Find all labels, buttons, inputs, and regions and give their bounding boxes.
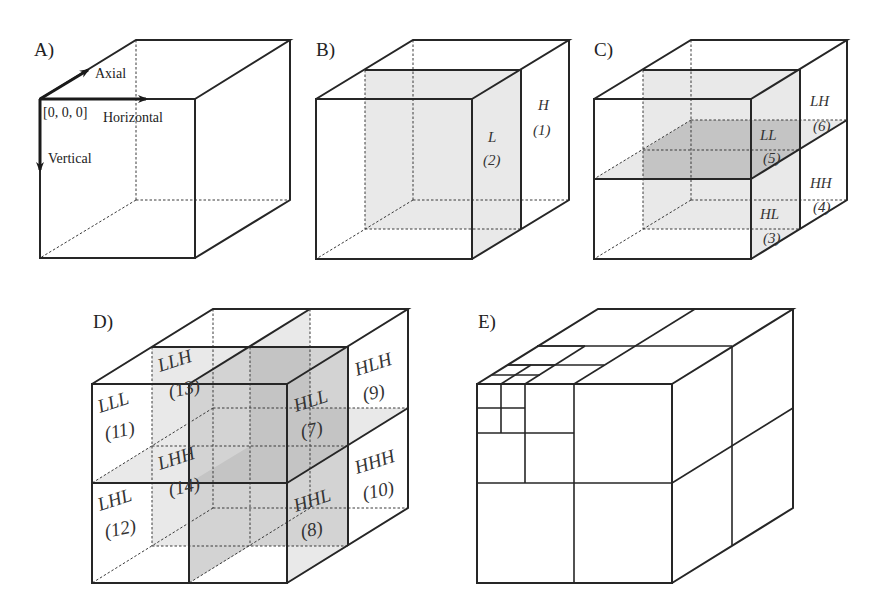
subband-index: (4)	[813, 199, 831, 216]
subband-index: (3)	[763, 230, 781, 247]
subband-index: (11)	[102, 417, 136, 445]
axial-arrow-icon	[40, 70, 88, 99]
subband-name: HHH	[351, 445, 399, 478]
subband-name: LLL	[94, 387, 132, 417]
subband-name: LHL	[94, 484, 135, 515]
subband-name: LH	[809, 93, 830, 109]
axial-label: Axial	[95, 66, 126, 81]
origin-label: [0, 0, 0]	[43, 105, 87, 120]
wavelet-decomposition-figure: A) Axial Horizontal Vertical [0, 0, 0] B…	[0, 0, 880, 608]
subband-hhh: HHH (10)	[351, 445, 399, 505]
cube-outline	[40, 40, 290, 258]
subband-name: HLH	[351, 348, 396, 380]
subband-name: HH	[809, 175, 833, 191]
horizontal-label: Horizontal	[103, 110, 163, 125]
subband-lhl: LHL (12)	[94, 484, 138, 543]
panel-e-label: E)	[478, 311, 496, 333]
subband-name: HL	[759, 206, 779, 222]
subband-index: (6)	[813, 118, 831, 135]
panel-b: B) L (2) H (1)	[316, 39, 569, 259]
subband-hh: HH (4)	[809, 175, 833, 216]
subband-index: (5)	[763, 150, 781, 167]
panel-a: A) Axial Horizontal Vertical [0, 0, 0]	[34, 39, 290, 258]
panel-d-label: D)	[93, 311, 113, 333]
subband-index: (2)	[483, 152, 501, 169]
subband-name: L	[487, 129, 496, 145]
subband-index: (10)	[360, 477, 396, 505]
subband-name: LL	[759, 127, 777, 143]
hidden-edges	[40, 40, 290, 258]
subband-name: H	[537, 97, 550, 113]
subband-index: (9)	[360, 380, 386, 406]
subband-index: (12)	[102, 515, 138, 543]
subband-index: (1)	[533, 122, 551, 139]
subband-h: H (1)	[533, 97, 551, 139]
subband-lh: LH (6)	[809, 93, 831, 135]
subband-hlh: HLH (9)	[351, 348, 396, 406]
panel-b-label: B)	[316, 39, 335, 61]
multilevel-cube	[477, 309, 793, 583]
panel-c: C) LL (5) LH	[594, 39, 847, 259]
panel-a-label: A)	[34, 39, 54, 61]
vertical-label: Vertical	[48, 151, 92, 166]
panel-e: E)	[477, 309, 793, 583]
panel-c-label: C)	[594, 39, 613, 61]
subband-lll: LLL (11)	[94, 387, 137, 445]
panel-d: D)	[92, 309, 408, 583]
